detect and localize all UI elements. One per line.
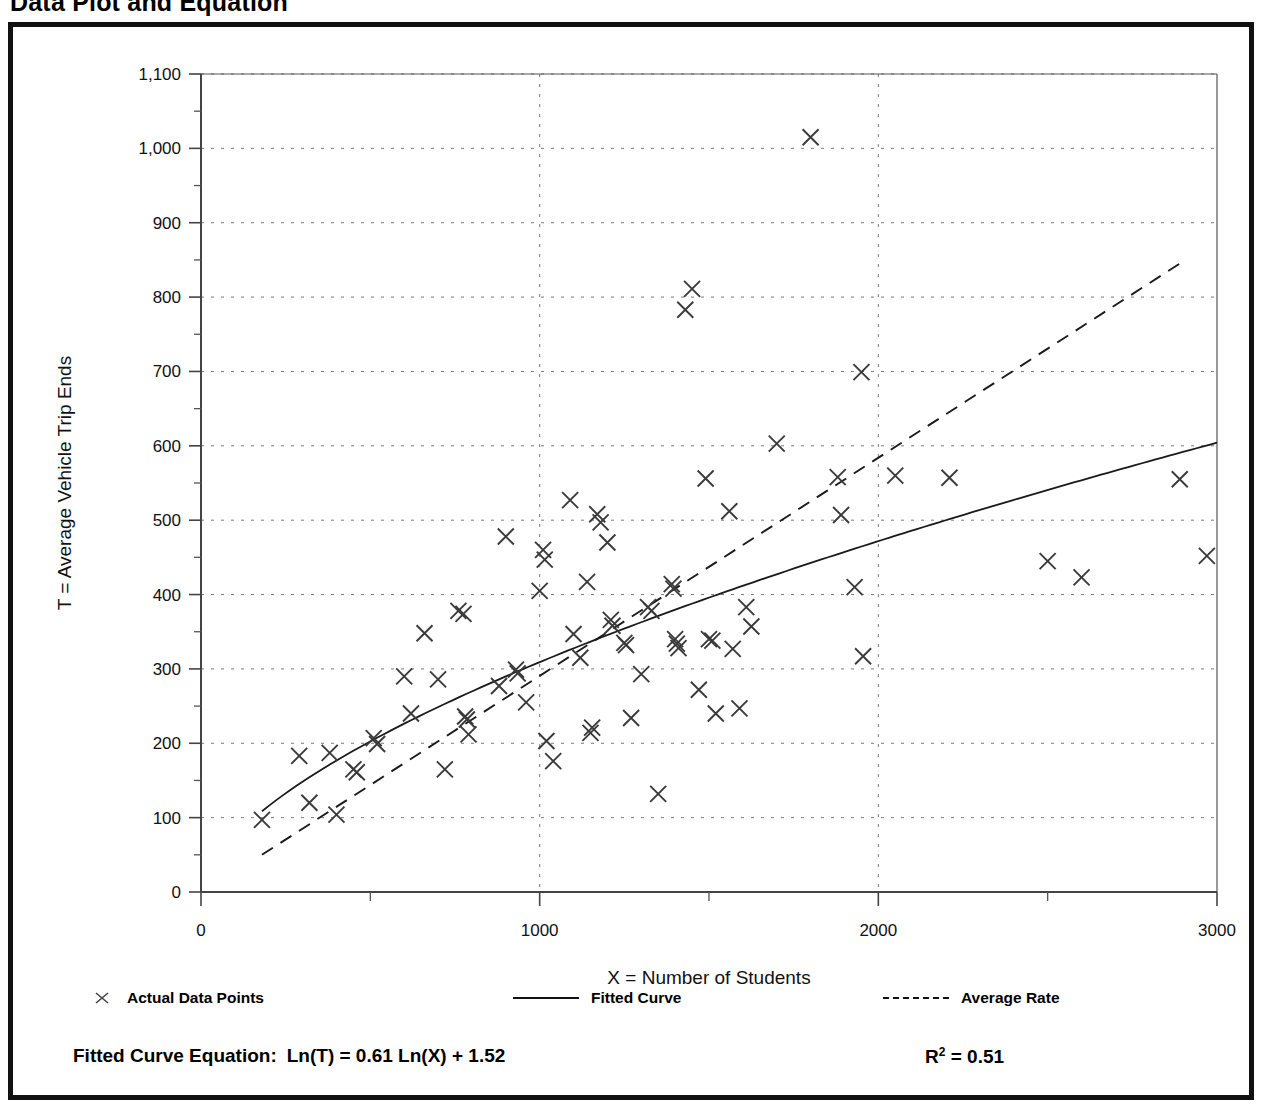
data-point-marker bbox=[291, 748, 307, 764]
y-tick-label: 600 bbox=[153, 437, 181, 456]
y-tick-label: 300 bbox=[153, 660, 181, 679]
y-tick-label: 900 bbox=[153, 214, 181, 233]
scatter-chart: 01002003004005006007008009001,0001,10001… bbox=[13, 27, 1259, 1105]
r-squared-value: R2 = 0.51 bbox=[925, 1045, 1004, 1068]
dashed-line-icon bbox=[883, 990, 949, 1006]
data-point-marker bbox=[769, 436, 785, 452]
data-point-marker bbox=[545, 753, 561, 769]
r-squared-number: = 0.51 bbox=[951, 1046, 1004, 1067]
data-point-marker bbox=[887, 468, 903, 484]
equation-row: Fitted Curve Equation:Ln(T) = 0.61 Ln(X)… bbox=[13, 1045, 1259, 1085]
data-point-marker bbox=[1172, 471, 1188, 487]
data-point-marker bbox=[498, 529, 514, 545]
data-point-marker bbox=[437, 761, 453, 777]
data-point-marker bbox=[743, 619, 759, 635]
data-point-marker bbox=[691, 682, 707, 698]
x-tick-label: 0 bbox=[196, 921, 205, 940]
y-tick-label: 700 bbox=[153, 362, 181, 381]
chart-legend: Actual Data Points Fitted Curve Average … bbox=[13, 985, 1259, 1031]
data-point-marker bbox=[698, 471, 714, 487]
data-point-marker bbox=[430, 671, 446, 687]
data-point-marker bbox=[725, 641, 741, 657]
data-point-marker bbox=[677, 302, 693, 318]
equation-prefix: Fitted Curve Equation: bbox=[73, 1045, 277, 1066]
data-point-marker bbox=[537, 552, 553, 568]
y-tick-label: 400 bbox=[153, 586, 181, 605]
data-point-marker bbox=[403, 706, 419, 722]
legend-label-actual: Actual Data Points bbox=[127, 989, 264, 1007]
data-point-marker bbox=[1199, 548, 1215, 564]
data-point-marker bbox=[328, 807, 344, 823]
fitted-curve-line bbox=[262, 443, 1217, 812]
equation-formula: Ln(T) = 0.61 Ln(X) + 1.52 bbox=[287, 1045, 506, 1066]
figure-frame: 01002003004005006007008009001,0001,10001… bbox=[8, 22, 1254, 1100]
data-point-marker bbox=[461, 726, 477, 742]
x-tick-label: 1000 bbox=[521, 921, 559, 940]
r-squared-symbol: R bbox=[925, 1046, 939, 1067]
data-point-marker bbox=[562, 492, 578, 508]
data-point-marker bbox=[396, 668, 412, 684]
data-point-marker bbox=[579, 574, 595, 590]
y-tick-label: 500 bbox=[153, 511, 181, 530]
data-point-marker bbox=[853, 364, 869, 380]
y-tick-label: 100 bbox=[153, 809, 181, 828]
data-point-marker bbox=[731, 700, 747, 716]
legend-label-fitted: Fitted Curve bbox=[591, 989, 681, 1007]
y-tick-label: 800 bbox=[153, 288, 181, 307]
legend-label-average: Average Rate bbox=[961, 989, 1060, 1007]
data-point-marker bbox=[322, 745, 338, 761]
data-point-marker bbox=[847, 579, 863, 595]
data-point-marker bbox=[618, 637, 634, 653]
chart-svg: 01002003004005006007008009001,0001,10001… bbox=[13, 27, 1259, 1105]
data-point-marker bbox=[643, 603, 659, 619]
fitted-curve-equation: Fitted Curve Equation:Ln(T) = 0.61 Ln(X)… bbox=[73, 1045, 505, 1067]
y-tick-label: 200 bbox=[153, 734, 181, 753]
legend-item-fitted-curve: Fitted Curve bbox=[513, 989, 681, 1007]
y-tick-label: 0 bbox=[172, 883, 181, 902]
data-point-marker bbox=[650, 786, 666, 802]
legend-item-actual-data-points: Actual Data Points bbox=[91, 989, 264, 1007]
page-title: Data Plot and Equation bbox=[10, 0, 288, 17]
data-point-marker bbox=[941, 470, 957, 486]
data-point-marker bbox=[538, 733, 554, 749]
data-point-marker bbox=[603, 612, 619, 628]
data-point-marker bbox=[721, 503, 737, 519]
data-points-group bbox=[254, 129, 1215, 828]
data-point-marker bbox=[455, 606, 471, 622]
solid-line-icon bbox=[513, 990, 579, 1006]
data-point-marker bbox=[1040, 553, 1056, 569]
data-point-marker bbox=[599, 534, 615, 550]
data-point-marker bbox=[684, 281, 700, 297]
data-point-marker bbox=[803, 129, 819, 145]
data-point-marker bbox=[855, 648, 871, 664]
data-point-marker bbox=[417, 625, 433, 641]
data-point-marker bbox=[491, 678, 507, 694]
data-point-marker bbox=[623, 710, 639, 726]
x-tick-label: 3000 bbox=[1198, 921, 1236, 940]
data-point-marker bbox=[301, 795, 317, 811]
data-point-marker bbox=[566, 626, 582, 642]
y-tick-label: 1,000 bbox=[138, 139, 181, 158]
y-axis-title: T = Average Vehicle Trip Ends bbox=[54, 356, 75, 610]
data-point-marker bbox=[830, 469, 846, 485]
y-tick-label: 1,100 bbox=[138, 65, 181, 84]
x-marker-icon bbox=[91, 990, 115, 1006]
legend-item-average-rate: Average Rate bbox=[883, 989, 1060, 1007]
data-point-marker bbox=[518, 694, 534, 710]
data-point-marker bbox=[1074, 569, 1090, 585]
r-squared-exponent: 2 bbox=[939, 1045, 946, 1059]
data-point-marker bbox=[708, 706, 724, 722]
x-tick-label: 2000 bbox=[859, 921, 897, 940]
data-point-marker bbox=[738, 599, 754, 615]
data-point-marker bbox=[450, 603, 466, 619]
data-point-marker bbox=[254, 812, 270, 828]
data-point-marker bbox=[572, 650, 588, 666]
